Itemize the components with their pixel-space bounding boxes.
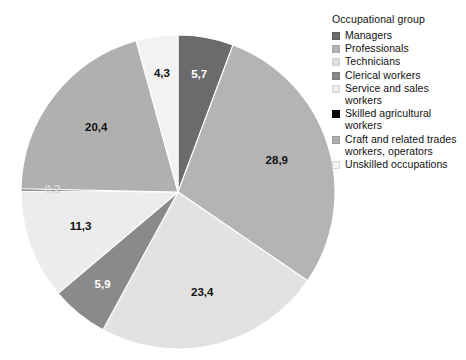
legend-item-label: Service and sales workers <box>345 82 464 106</box>
legend-color-swatch <box>332 85 340 93</box>
legend-item-list: ManagersProfessionalsTechniciansClerical… <box>332 29 464 170</box>
legend-color-swatch <box>332 45 340 53</box>
legend-item-label: Craft and related trades workers, operat… <box>345 133 464 157</box>
legend-item-label: Skilled agricultural workers <box>345 107 464 131</box>
legend-color-swatch <box>332 161 340 169</box>
legend-item[interactable]: Skilled agricultural workers <box>332 107 464 131</box>
legend-item[interactable]: Technicians <box>332 55 464 67</box>
legend-item[interactable]: Unskilled occupations <box>332 158 464 170</box>
legend-item[interactable]: Service and sales workers <box>332 82 464 106</box>
legend-item-label: Professionals <box>345 42 409 54</box>
legend-item[interactable]: Clerical workers <box>332 69 464 81</box>
legend-color-swatch <box>332 58 340 66</box>
legend-item-label: Managers <box>345 29 392 41</box>
chart-legend: Occupational group ManagersProfessionals… <box>332 13 464 171</box>
legend-item[interactable]: Craft and related trades workers, operat… <box>332 133 464 157</box>
pie-slice-value-label: 23,4 <box>191 286 214 298</box>
pie-slice-value-label: 5,9 <box>95 278 111 290</box>
legend-color-swatch <box>332 136 340 144</box>
pie-slice-value-label: 20,4 <box>85 121 108 133</box>
pie-slice-value-label: 0,2 <box>44 183 60 195</box>
pie-chart-figure: 5,728,923,45,911,30,220,44,3 Occupationa… <box>0 0 466 360</box>
legend-color-swatch <box>332 72 340 80</box>
legend-item[interactable]: Managers <box>332 29 464 41</box>
pie-slice-value-label: 4,3 <box>154 67 170 79</box>
pie-slice-value-label: 5,7 <box>191 68 207 80</box>
legend-item-label: Technicians <box>345 55 400 67</box>
pie-chart-plot-area: 5,728,923,45,911,30,220,44,3 <box>0 0 340 360</box>
pie-slice-value-label: 28,9 <box>266 154 288 166</box>
pie-slice-value-label: 11,3 <box>70 220 92 232</box>
legend-item-label: Clerical workers <box>345 69 420 81</box>
legend-item[interactable]: Professionals <box>332 42 464 54</box>
legend-color-swatch <box>332 32 340 40</box>
pie-slice-group <box>21 35 335 349</box>
legend-title: Occupational group <box>332 13 464 25</box>
pie-chart-svg: 5,728,923,45,911,30,220,44,3 <box>0 0 340 360</box>
legend-item-label: Unskilled occupations <box>345 158 448 170</box>
legend-color-swatch <box>332 110 340 118</box>
